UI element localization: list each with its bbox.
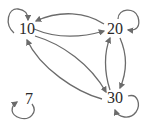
node-7: 7 (25, 91, 33, 107)
edge-10-to-30 (35, 36, 106, 92)
graph-canvas (0, 0, 146, 125)
node-20: 20 (107, 21, 123, 37)
edge-30-to-20 (106, 38, 111, 90)
node-30: 30 (107, 90, 123, 106)
edge-20-to-10 (36, 14, 104, 24)
edge-10-to-20 (34, 29, 104, 36)
node-10: 10 (19, 21, 35, 37)
edge-20-to-30 (120, 38, 125, 88)
